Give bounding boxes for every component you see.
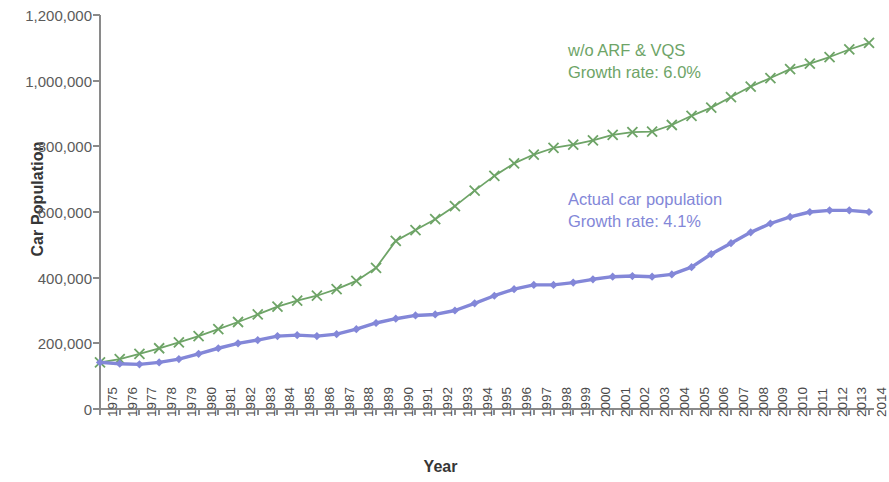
data-point-marker xyxy=(351,276,361,286)
data-point-marker xyxy=(746,82,756,92)
x-tick-label: 2011 xyxy=(815,388,830,417)
x-tick-label: 1997 xyxy=(539,387,554,417)
x-tick-label: 1993 xyxy=(460,387,475,417)
data-point-marker xyxy=(391,236,401,246)
data-point-marker xyxy=(786,213,794,221)
x-tick-label: 2005 xyxy=(697,387,712,417)
data-point-marker xyxy=(431,310,439,318)
data-point-marker xyxy=(510,285,518,293)
x-tick-label: 1977 xyxy=(144,387,159,417)
x-tick-label: 2001 xyxy=(618,387,633,417)
x-tick-label: 2007 xyxy=(736,387,751,417)
x-axis-title: Year xyxy=(0,458,881,476)
data-point-marker xyxy=(411,311,419,319)
data-point-marker xyxy=(844,44,854,54)
series-annotation-purple-line2: Growth rate: 4.1% xyxy=(568,211,722,233)
data-point-marker xyxy=(668,270,676,278)
data-point-marker xyxy=(175,355,183,363)
x-tick-label: 2009 xyxy=(775,387,790,417)
data-point-marker xyxy=(332,284,342,294)
data-point-marker xyxy=(214,344,222,352)
series-annotation-green: w/o ARF & VQS Growth rate: 6.0% xyxy=(568,40,701,84)
data-point-marker xyxy=(489,171,499,181)
x-tick-label: 1983 xyxy=(263,387,278,417)
x-tick-label: 1992 xyxy=(440,387,455,417)
series-annotation-green-line2: Growth rate: 6.0% xyxy=(568,62,701,84)
x-tick-label: 1975 xyxy=(105,387,120,417)
series-actual-car-population xyxy=(96,206,873,368)
data-point-marker xyxy=(785,64,795,74)
x-tick-label: 2012 xyxy=(835,387,850,417)
x-tick-label: 1998 xyxy=(559,387,574,417)
data-point-marker xyxy=(667,120,677,130)
data-point-marker xyxy=(233,317,243,327)
data-point-marker xyxy=(333,330,341,338)
x-tick-label: 2002 xyxy=(637,387,652,417)
data-point-marker xyxy=(410,225,420,235)
x-tick-label: 1988 xyxy=(361,387,376,417)
series-line xyxy=(100,43,869,362)
data-point-marker xyxy=(825,52,835,62)
x-tick-label: 2000 xyxy=(598,387,613,417)
data-point-marker xyxy=(135,360,143,368)
x-tick-label: 2014 xyxy=(874,387,889,417)
data-point-marker xyxy=(805,59,815,69)
data-point-marker xyxy=(569,278,577,286)
data-point-marker xyxy=(194,350,202,358)
x-tick-label: 1999 xyxy=(578,387,593,417)
data-point-marker xyxy=(272,302,282,312)
data-point-marker xyxy=(154,343,164,353)
data-point-marker xyxy=(372,319,380,327)
data-point-marker xyxy=(430,214,440,224)
series-wo-arf-vqs xyxy=(95,38,874,367)
series-annotation-green-line1: w/o ARF & VQS xyxy=(568,40,701,62)
data-point-marker xyxy=(726,92,736,102)
data-point-marker xyxy=(589,275,597,283)
x-tick-label: 1982 xyxy=(243,387,258,417)
x-tick-label: 1996 xyxy=(519,387,534,417)
data-point-marker xyxy=(253,309,263,319)
data-point-marker xyxy=(825,206,833,214)
data-point-marker xyxy=(865,208,873,216)
x-tick-label: 1976 xyxy=(125,387,140,417)
data-point-marker xyxy=(371,263,381,273)
x-tick-label: 1978 xyxy=(164,387,179,417)
x-tick-label: 1990 xyxy=(401,387,416,417)
series-annotation-purple: Actual car population Growth rate: 4.1% xyxy=(568,189,722,233)
data-point-marker xyxy=(254,336,262,344)
x-tick-label: 1980 xyxy=(204,387,219,417)
x-tick-label: 2006 xyxy=(716,387,731,417)
x-tick-label: 1984 xyxy=(282,387,297,417)
data-point-marker xyxy=(470,186,480,196)
data-point-marker xyxy=(549,281,557,289)
data-point-marker xyxy=(864,38,874,48)
x-tick-label: 2010 xyxy=(795,387,810,417)
x-tick-label: 2008 xyxy=(756,387,771,417)
x-tick-label: 1985 xyxy=(302,387,317,417)
x-tick-label: 1986 xyxy=(322,387,337,417)
x-tick-label: 1994 xyxy=(480,387,495,417)
data-point-marker xyxy=(628,272,636,280)
series-annotation-purple-line1: Actual car population xyxy=(568,189,722,211)
data-point-marker xyxy=(530,281,538,289)
data-point-marker xyxy=(293,331,301,339)
data-point-marker xyxy=(352,325,360,333)
data-point-marker xyxy=(194,331,204,341)
data-point-marker xyxy=(529,150,539,160)
data-point-marker xyxy=(706,103,716,113)
data-point-marker xyxy=(509,158,519,168)
x-tick-label: 2003 xyxy=(657,387,672,417)
data-point-marker xyxy=(450,201,460,211)
data-point-marker xyxy=(687,111,697,121)
data-point-marker xyxy=(765,73,775,83)
data-point-marker xyxy=(174,337,184,347)
data-point-marker xyxy=(648,273,656,281)
data-point-marker xyxy=(609,273,617,281)
x-tick-label: 1989 xyxy=(381,387,396,417)
data-point-marker xyxy=(155,358,163,366)
data-point-marker xyxy=(313,332,321,340)
data-point-marker xyxy=(845,206,853,214)
x-tick-label: 2004 xyxy=(677,387,692,417)
x-tick-label: 1991 xyxy=(420,387,435,417)
